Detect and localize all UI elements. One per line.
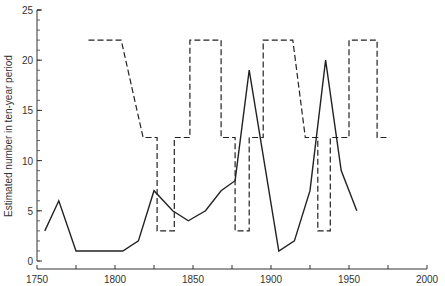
y-tick-label: 10 (22, 156, 34, 167)
x-tick-label: 1850 (182, 274, 205, 285)
x-tick-label: 1750 (26, 274, 49, 285)
y-tick-label: 25 (22, 5, 34, 16)
plot-area (45, 40, 390, 251)
x-tick-label: 1950 (338, 274, 361, 285)
y-tick-label: 15 (22, 105, 34, 116)
x-tick-label: 2000 (416, 274, 439, 285)
y-tick-label: 20 (22, 55, 34, 66)
x-tick-label: 1800 (104, 274, 127, 285)
y-tick-label: 0 (27, 256, 33, 267)
y-axis: 0510152025 (22, 5, 42, 267)
y-tick-label: 5 (27, 206, 33, 217)
y-axis-title: Estimated number in ten-year period (3, 55, 14, 217)
series-dashed-line (89, 40, 390, 231)
chart: 0510152025 175018001850190019502000 Esti… (0, 0, 445, 286)
x-tick-label: 1900 (260, 274, 283, 285)
series-solid-line (45, 60, 357, 251)
x-axis: 175018001850190019502000 (26, 265, 439, 285)
